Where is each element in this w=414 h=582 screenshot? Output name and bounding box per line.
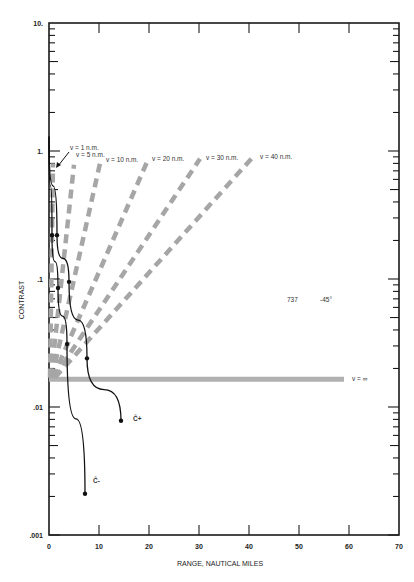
x-tick-label: 20 — [145, 543, 153, 550]
y-tick-label: .1 — [37, 276, 43, 283]
label-v30: v = 30 n.m. — [206, 154, 239, 161]
y-tick-label: .001 — [29, 532, 43, 539]
label-v20: v = 20 n.m. — [152, 155, 185, 162]
label-v10: v = 10 n.m. — [106, 156, 139, 163]
contrast-vs-range-chart: 10.1..1.01.001 010203040506070 RANGE, NA… — [0, 0, 414, 582]
x-tick-label: 30 — [195, 543, 203, 550]
y-axis-tick-labels: 10.1..1.01.001 — [29, 20, 43, 539]
c-minus-label: Ĉ- — [93, 476, 100, 484]
x-axis-ticks — [99, 23, 349, 535]
x-tick-label: 10 — [95, 543, 103, 550]
aircraft-label: 737 — [287, 296, 298, 303]
y-tick-label: 10. — [33, 20, 43, 27]
x-tick-label: 40 — [245, 543, 253, 550]
label-v1: v = 1 n.m. — [70, 144, 99, 151]
y-tick-label: .01 — [33, 404, 43, 411]
label-v40: v = 40 n.m. — [260, 153, 293, 160]
c-plus-label: Ĉ+ — [133, 414, 142, 422]
x-tick-label: 70 — [395, 543, 403, 550]
x-axis-tick-labels: 010203040506070 — [47, 543, 403, 550]
y-axis-ticks — [49, 29, 399, 535]
y-axis-title: CONTRAST — [18, 280, 25, 319]
angle-label: -45° — [320, 296, 332, 303]
plot-frame — [49, 23, 399, 535]
x-axis-title: RANGE, NAUTICAL MILES — [177, 560, 263, 567]
visibility-dashed-lines — [50, 157, 253, 378]
series-labels: v = ∞v = 1 n.m.v = 5 n.m.v = 10 n.m.v = … — [56, 144, 368, 484]
y-tick-label: 1. — [37, 148, 43, 155]
v-infinity-label: v = ∞ — [352, 375, 368, 382]
x-tick-label: 60 — [345, 543, 353, 550]
x-tick-label: 50 — [295, 543, 303, 550]
label-v5: v = 5 n.m. — [76, 151, 105, 158]
x-tick-label: 0 — [47, 543, 51, 550]
